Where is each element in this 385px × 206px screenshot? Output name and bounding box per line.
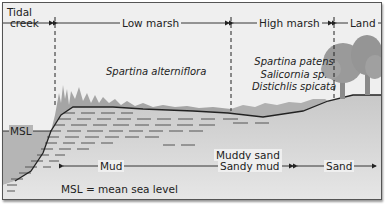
zone-label-tidal-line2: creek	[8, 17, 41, 29]
species-salicornia: Salicornia sp.	[249, 69, 339, 82]
sediment-label-sandy-mud: Sandy mud	[218, 160, 282, 172]
zone-label-low-marsh: Low marsh	[120, 17, 181, 29]
sediment-label-mud: Mud	[98, 160, 124, 172]
species-high-marsh: Spartina patens Salicornia sp. Distichli…	[249, 56, 339, 94]
msl-label: MSL	[9, 125, 33, 137]
species-spartina-patens: Spartina patens	[249, 56, 339, 69]
species-distichlis: Distichlis spicata	[249, 81, 339, 94]
zone-label-land: Land	[348, 17, 378, 29]
legend-msl: MSL = mean sea level	[59, 183, 180, 195]
sediment-label-sand: Sand	[324, 160, 354, 172]
salt-marsh-diagram: Tidal creek Low marsh High marsh Land Sp…	[2, 2, 382, 200]
zone-label-high-marsh: High marsh	[257, 17, 322, 29]
species-low-marsh: Spartina alterniflora	[106, 66, 206, 79]
